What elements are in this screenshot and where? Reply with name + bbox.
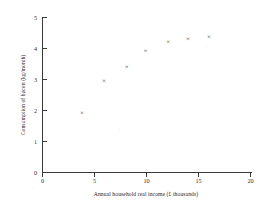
data-point-marker: × (207, 33, 211, 41)
data-point-marker: × (102, 77, 106, 85)
x-tick-label: 5 (93, 177, 96, 184)
x-tick-label: 20 (247, 177, 253, 184)
y-tick-label: 1 (34, 138, 37, 145)
data-point-marker: × (166, 38, 170, 46)
y-tick-label: 3 (34, 76, 37, 83)
x-tick-label: 10 (143, 177, 149, 184)
plot-canvas: 5 4 3 2 1 0 0 5 10 15 20 Annual househol… (0, 0, 272, 213)
data-point-marker: × (125, 63, 129, 71)
data-point-marker: × (186, 35, 190, 43)
y-tick-label: 4 (34, 45, 37, 52)
data-point-marker: × (143, 47, 147, 55)
data-point-marker: × (80, 109, 84, 117)
x-tick-label: 15 (195, 177, 201, 184)
scatter-chart-figure: 5 4 3 2 1 0 0 5 10 15 20 Annual househol… (0, 0, 272, 213)
x-tick-label: 0 (41, 177, 44, 184)
y-tick-label: 0 (34, 169, 37, 176)
x-axis-title: Annual household real income (£ thousand… (94, 191, 198, 198)
y-tick-label: 5 (34, 14, 37, 21)
y-tick-label: 2 (34, 107, 37, 114)
y-axis-title: Consumption of bacon (kg/month) (20, 55, 27, 136)
